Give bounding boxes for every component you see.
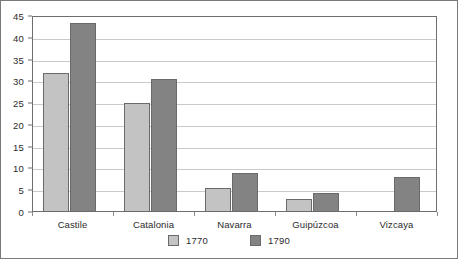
x-axis-label-vizcaya: Vizcaya (380, 219, 414, 230)
bar-navarra-1790[interactable] (232, 173, 258, 212)
y-axis: 454035302520151050 (1, 1, 32, 213)
x-tick-mark (356, 212, 357, 216)
y-tick-label: 25 (13, 98, 24, 109)
legend-swatch-1790 (250, 235, 261, 246)
y-tick-label: 45 (13, 11, 24, 22)
x-tick-mark (275, 212, 276, 216)
bar-group (113, 16, 194, 212)
legend-label-1770: 1770 (186, 235, 208, 246)
x-tick-mark (194, 212, 195, 216)
x-axis: CastileCataloniaNavarraGuipúzcoaVizcaya (32, 212, 437, 236)
x-tick-mark (437, 212, 438, 216)
bar-catalonia-1770[interactable] (124, 103, 150, 212)
x-axis-label-catalonia: Catalonia (133, 219, 174, 230)
y-tick-label: 20 (13, 119, 24, 130)
bar-group (194, 16, 275, 212)
legend-entry-1790[interactable]: 1790 (250, 235, 290, 246)
bars-layer (32, 16, 437, 212)
bar-chart-figure: 454035302520151050 CastileCataloniaNavar… (0, 0, 458, 259)
bar-catalonia-1790[interactable] (151, 79, 177, 212)
bar-guipúzcoa-1770[interactable] (286, 199, 312, 212)
x-tick-mark (32, 212, 33, 216)
chart-legend: 17701790 (1, 235, 457, 246)
legend-label-1790: 1790 (268, 235, 290, 246)
y-tick-label: 5 (19, 185, 24, 196)
bar-guipúzcoa-1790[interactable] (313, 193, 339, 212)
bar-vizcaya-1790[interactable] (394, 177, 420, 212)
bar-group (32, 16, 113, 212)
y-tick-label: 40 (13, 32, 24, 43)
bar-group (356, 16, 437, 212)
y-tick-label: 15 (13, 141, 24, 152)
bar-group (275, 16, 356, 212)
x-axis-label-guipúzcoa: Guipúzcoa (292, 219, 338, 230)
y-tick-label: 10 (13, 163, 24, 174)
legend-entry-1770[interactable]: 1770 (168, 235, 208, 246)
x-axis-label-navarra: Navarra (217, 219, 252, 230)
bar-navarra-1770[interactable] (205, 188, 231, 212)
y-tick-label: 35 (13, 54, 24, 65)
bar-castile-1770[interactable] (43, 73, 69, 212)
x-axis-label-castile: Castile (58, 219, 88, 230)
y-tick-label: 30 (13, 76, 24, 87)
y-tick-label: 0 (19, 207, 24, 218)
bar-castile-1790[interactable] (70, 23, 96, 212)
x-tick-mark (113, 212, 114, 216)
legend-swatch-1770 (168, 235, 179, 246)
